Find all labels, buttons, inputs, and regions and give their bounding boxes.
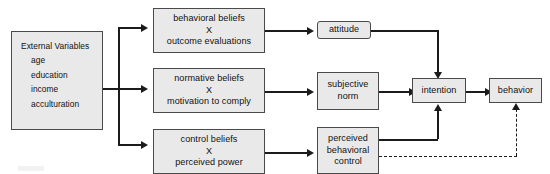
edge-attitude-to-intention-v (437, 30, 439, 74)
external-variable-item-education: education (31, 70, 68, 80)
arrowhead-pbc-into-behavior (512, 103, 520, 110)
edge-behavioral-to-attitude (265, 30, 309, 32)
node-behavioral-beliefs[interactable]: behavioral beliefs X outcome evaluations (153, 8, 265, 53)
external-variable-item-acculturation: acculturation (31, 99, 79, 109)
node-subjective-norm[interactable]: subjective norm (317, 72, 379, 110)
arrowhead-pbc-into-intention (434, 104, 442, 111)
intention-label: intention (422, 85, 457, 97)
behavioral-beliefs-line1: behavioral beliefs (173, 13, 245, 25)
arrowhead-to-control-beliefs (141, 141, 148, 149)
edge-external-to-behavioral (118, 27, 142, 29)
edge-pbc-to-behavior-dashed-v (516, 109, 517, 156)
arrowhead-to-attitude (307, 27, 314, 35)
normative-beliefs-line3: motivation to comply (167, 96, 251, 108)
node-normative-beliefs[interactable]: normative beliefs X motivation to comply (153, 68, 265, 113)
normative-beliefs-operator: X (206, 85, 212, 97)
behavioral-beliefs-line3: outcome evaluations (167, 36, 251, 48)
edge-external-trunk (103, 88, 119, 90)
edge-external-to-normative (118, 88, 142, 90)
edge-pbc-to-intention-v (437, 110, 439, 139)
arrowhead-to-pbc (307, 149, 314, 157)
node-behavior[interactable]: behavior (489, 78, 542, 103)
node-control-beliefs[interactable]: control beliefs X perceived power (153, 129, 265, 174)
node-attitude[interactable]: attitude (317, 21, 371, 39)
control-beliefs-operator: X (206, 146, 212, 158)
arrowhead-to-normative-beliefs (141, 85, 148, 93)
node-external-variables[interactable]: External Variables age education income … (11, 31, 103, 130)
edge-attitude-to-intention-h (371, 30, 438, 32)
attitude-label: attitude (329, 24, 359, 36)
behavioral-beliefs-operator: X (206, 25, 212, 37)
arrowhead-to-behavioral-beliefs (141, 24, 148, 32)
edge-control-to-pbc (265, 152, 309, 154)
edge-subjective-norm-to-intention (379, 91, 412, 93)
edge-normative-to-subjective-norm (265, 91, 309, 93)
node-intention[interactable]: intention (412, 78, 466, 103)
edge-pbc-to-intention-h (379, 139, 438, 141)
external-variable-item-income: income (31, 84, 58, 94)
pbc-line2: behavioral (327, 145, 369, 157)
pbc-line1: perceived (328, 133, 368, 145)
node-perceived-behavioral-control[interactable]: perceived behavioral control (317, 127, 379, 174)
edge-external-to-control (118, 144, 142, 146)
edge-pbc-to-behavior-dashed-h (379, 156, 517, 157)
arrowhead-to-subjective-norm (307, 88, 314, 96)
pbc-line3: control (334, 156, 362, 168)
external-variables-heading: External Variables (21, 41, 89, 51)
edge-external-bus (118, 27, 120, 145)
subjective-norm-line1: subjective (328, 79, 369, 91)
normative-beliefs-line1: normative beliefs (174, 73, 244, 85)
control-beliefs-line1: control beliefs (181, 134, 238, 146)
behavior-label: behavior (498, 85, 533, 97)
subjective-norm-line2: norm (338, 91, 359, 103)
diagram-canvas: External Variables age education income … (0, 0, 550, 174)
scan-artifact (18, 166, 44, 171)
control-beliefs-line3: perceived power (175, 157, 242, 169)
external-variable-item-age: age (31, 55, 45, 65)
